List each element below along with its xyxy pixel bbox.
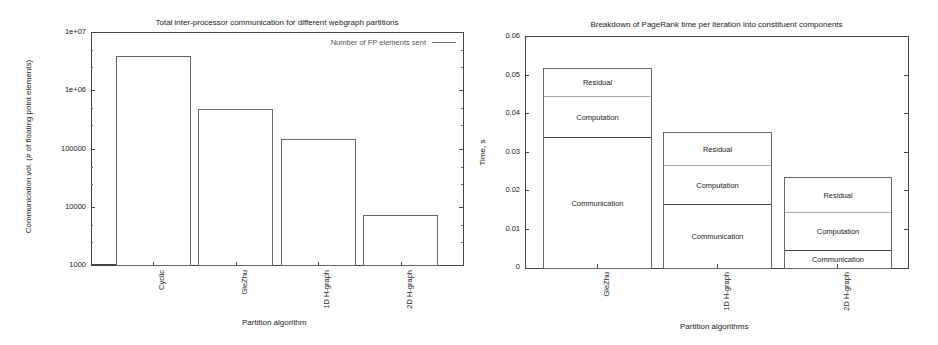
y-tick [525,229,529,230]
stacked-bar-1d-hgraph: Residual Computation Communication [663,132,772,269]
chart-title: Breakdown of PageRank time per iteration… [525,20,908,29]
pagerank-time-breakdown-chart: Breakdown of PageRank time per iteration… [0,0,938,345]
segment-communication: Communication [785,250,891,268]
x-axis-title: Partition algorithms [680,322,748,331]
x-tick-label: 1D H-graph [722,272,731,311]
segment-residual: Residual [544,69,651,96]
y-tick [525,190,529,191]
segment-communication: Communication [664,204,771,268]
y-tick-label: 0.01 [480,224,520,233]
y-tick [904,229,908,230]
x-tick [717,264,718,268]
segment-label: Computation [696,181,739,190]
segment-label: Communication [571,199,623,208]
stacked-bar-glezhu: Residual Computation Communication [543,68,652,269]
x-tick-label: 2D H-graph [842,272,851,311]
y-tick [525,152,529,153]
segment-label: Communication [691,232,743,241]
segment-communication: Communication [544,137,651,268]
y-tick [525,113,529,114]
x-tick-label: GleZhu [602,272,611,297]
y-tick-label: 0.06 [480,31,520,40]
x-tick [597,264,598,268]
segment-label: Residual [583,78,612,87]
y-tick [904,190,908,191]
segment-label: Communication [812,255,864,264]
y-tick [904,75,908,76]
segment-computation: Computation [664,165,771,204]
segment-computation: Computation [785,212,891,250]
segment-residual: Residual [785,178,891,212]
y-tick [525,75,529,76]
stacked-bar-2d-hgraph: Residual Computation Communication [784,177,892,269]
y-tick-label: 0.05 [480,70,520,79]
y-tick-label: 0.02 [480,185,520,194]
y-tick [904,113,908,114]
y-axis-title: Time, s [478,133,487,173]
segment-label: Computation [817,227,860,236]
segment-label: Residual [823,191,852,200]
y-tick-label: 0 [480,262,520,271]
x-tick [837,264,838,268]
segment-label: Computation [576,113,619,122]
segment-residual: Residual [664,133,771,165]
segment-computation: Computation [544,96,651,137]
y-tick [904,152,908,153]
segment-label: Residual [703,145,732,154]
y-tick-label: 0.04 [480,108,520,117]
